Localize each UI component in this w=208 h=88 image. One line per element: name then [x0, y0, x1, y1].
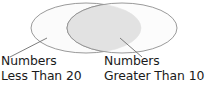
- left-set-label-line-1: Numbers: [1, 54, 82, 69]
- left-set-label: Numbers Less Than 20: [1, 54, 82, 83]
- right-set-label: Numbers Greater Than 10: [104, 54, 204, 83]
- right-set-label-line-2: Greater Than 10: [104, 69, 204, 84]
- left-set-label-line-2: Less Than 20: [1, 69, 82, 84]
- venn-diagram-figure: Numbers Less Than 20 Numbers Greater Tha…: [0, 0, 208, 88]
- right-set-label-line-1: Numbers: [104, 54, 204, 69]
